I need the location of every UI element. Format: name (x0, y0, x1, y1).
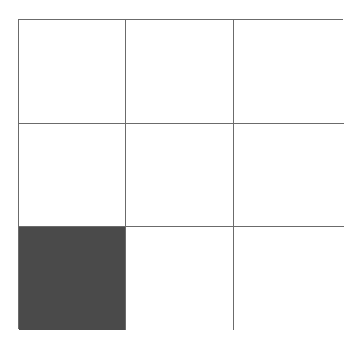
grid-cell-r3c3[interactable] (234, 227, 344, 330)
grid-cell-r2c3[interactable] (234, 124, 344, 227)
grid-cell-r3c1-filled[interactable] (19, 227, 126, 330)
grid-cell-r2c1[interactable] (19, 124, 126, 227)
grid-3x3 (18, 19, 343, 329)
grid-cell-r1c3[interactable] (234, 20, 344, 124)
grid-cell-r1c2[interactable] (126, 20, 234, 124)
grid-cell-r3c2[interactable] (126, 227, 234, 330)
grid-cell-r1c1[interactable] (19, 20, 126, 124)
grid-cell-r2c2[interactable] (126, 124, 234, 227)
